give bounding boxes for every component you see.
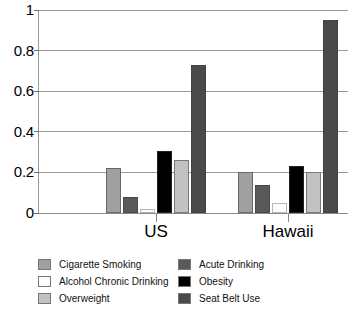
y-axis-tick-label: 1 bbox=[26, 2, 34, 17]
legend-swatch-icon bbox=[38, 259, 51, 270]
legend-item[interactable]: Overweight bbox=[38, 290, 188, 307]
gridline bbox=[38, 50, 348, 51]
x-axis-category-label: US bbox=[106, 222, 206, 241]
legend-column-right: Acute DrinkingObesitySeat Belt Use bbox=[178, 256, 338, 308]
legend-label: Overweight bbox=[59, 293, 110, 304]
legend-swatch-icon bbox=[178, 259, 191, 270]
y-axis-labels: 00.20.40.60.81 bbox=[0, 10, 34, 213]
bar bbox=[157, 151, 172, 213]
bar bbox=[255, 185, 270, 213]
legend-label: Cigarette Smoking bbox=[59, 259, 141, 270]
y-axis-tick bbox=[34, 50, 39, 51]
legend-swatch-icon bbox=[38, 276, 51, 287]
y-axis-tick-label: 0.6 bbox=[14, 83, 34, 98]
legend-item[interactable]: Obesity bbox=[178, 273, 338, 290]
y-axis-tick-label: 0.2 bbox=[14, 164, 34, 179]
y-axis-tick bbox=[34, 131, 39, 132]
y-axis-tick bbox=[34, 213, 39, 214]
y-axis-line bbox=[38, 10, 39, 213]
legend-label: Alcohol Chronic Drinking bbox=[59, 276, 169, 287]
y-axis-tick bbox=[34, 91, 39, 92]
bar bbox=[191, 65, 206, 213]
bar bbox=[289, 166, 304, 213]
legend-item[interactable]: Alcohol Chronic Drinking bbox=[38, 273, 188, 290]
chart-legend: Cigarette SmokingAlcohol Chronic Drinkin… bbox=[38, 256, 338, 308]
legend-swatch-icon bbox=[178, 293, 191, 304]
bar bbox=[123, 197, 138, 213]
bar bbox=[238, 172, 253, 213]
x-axis-tick bbox=[156, 213, 157, 222]
legend-label: Obesity bbox=[199, 276, 233, 287]
bar bbox=[323, 20, 338, 213]
bar-chart: 00.20.40.60.81 USHawaii Cigarette Smokin… bbox=[0, 0, 353, 312]
legend-label: Acute Drinking bbox=[199, 259, 264, 270]
legend-item[interactable]: Seat Belt Use bbox=[178, 290, 338, 307]
legend-swatch-icon bbox=[38, 293, 51, 304]
y-axis-tick-label: 0.4 bbox=[14, 124, 34, 139]
legend-label: Seat Belt Use bbox=[199, 293, 260, 304]
y-axis-tick bbox=[34, 10, 39, 11]
y-axis-tick bbox=[34, 172, 39, 173]
bar bbox=[140, 209, 155, 213]
legend-column-left: Cigarette SmokingAlcohol Chronic Drinkin… bbox=[38, 256, 188, 308]
bar bbox=[306, 172, 321, 213]
bar bbox=[272, 203, 287, 213]
y-axis-tick-label: 0.8 bbox=[14, 43, 34, 58]
bar bbox=[106, 168, 121, 213]
legend-item[interactable]: Cigarette Smoking bbox=[38, 256, 188, 273]
x-axis-category-label: Hawaii bbox=[238, 222, 338, 241]
bar bbox=[174, 160, 189, 213]
plot-area bbox=[38, 10, 348, 213]
y-axis-tick-label: 0 bbox=[26, 205, 34, 220]
x-axis-tick bbox=[288, 213, 289, 222]
legend-item[interactable]: Acute Drinking bbox=[178, 256, 338, 273]
legend-swatch-icon bbox=[178, 276, 191, 287]
gridline bbox=[38, 10, 348, 11]
